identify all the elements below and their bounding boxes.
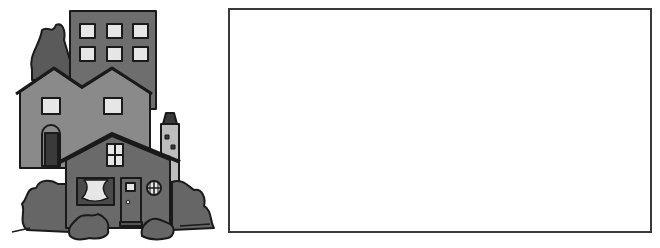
blank-drawing-box [228, 8, 652, 233]
houses-illustration [0, 0, 230, 248]
bush-right [172, 181, 214, 230]
bush-left [22, 181, 70, 232]
